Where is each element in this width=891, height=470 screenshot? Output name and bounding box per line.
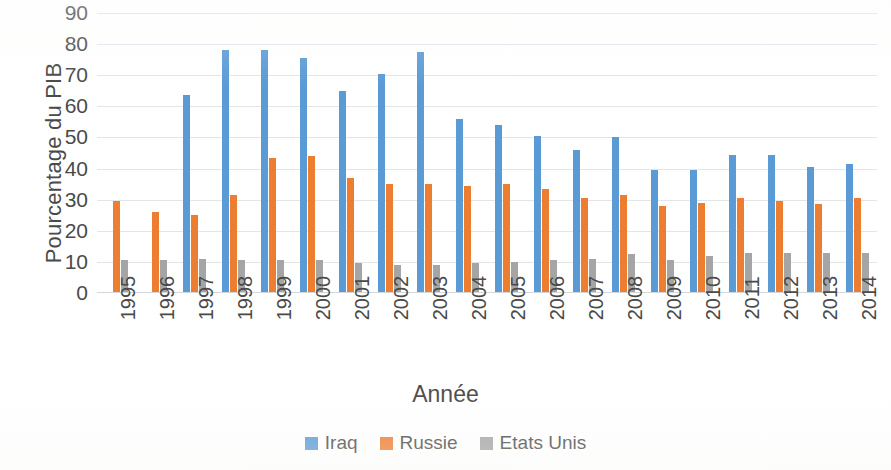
x-tick-cell: 2004 [448,296,487,374]
bar[interactable] [378,74,385,293]
bar[interactable] [846,164,853,293]
plot-area [97,13,877,293]
bar[interactable] [534,136,541,293]
x-tick-cell: 2012 [760,296,799,374]
legend-item[interactable]: Etats Unis [480,432,587,454]
bar-group [370,13,409,293]
x-tick-cell: 2000 [292,296,331,374]
x-axis-tick-labels: 1995199619971998199920002001200220032004… [97,296,877,374]
x-tick-cell: 2001 [331,296,370,374]
x-tick-cell: 2002 [370,296,409,374]
bar-group [721,13,760,293]
legend-swatch-icon [480,437,493,450]
y-tick-label: 30 [30,188,88,212]
x-tick-cell: 2003 [409,296,448,374]
bar-group [526,13,565,293]
bar[interactable] [308,156,315,293]
x-tick-cell: 2013 [799,296,838,374]
x-tick-cell: 2006 [526,296,565,374]
bar-group [565,13,604,293]
x-tick-cell: 2009 [643,296,682,374]
x-tick-cell: 2007 [565,296,604,374]
x-tick-cell: 2005 [487,296,526,374]
x-tick-cell: 1996 [136,296,175,374]
x-axis-title: Année [0,381,891,408]
y-tick-label: 70 [30,63,88,87]
bar-chart: Pourcentage du PIB 9080706050403020100 1… [0,0,891,470]
bar-group [838,13,877,293]
bar[interactable] [269,158,276,293]
bar-groups [97,13,877,293]
bar[interactable] [651,170,658,293]
bar[interactable] [417,52,424,293]
bar-group [253,13,292,293]
bar-group [448,13,487,293]
bar[interactable] [222,50,229,293]
bar-group [799,13,838,293]
bar[interactable] [300,58,307,293]
bar[interactable] [339,91,346,293]
bar-group [409,13,448,293]
x-tick-cell: 1995 [97,296,136,374]
legend-label: Etats Unis [500,432,587,454]
bar[interactable] [612,137,619,293]
bar-group [487,13,526,293]
x-tick-cell: 1997 [175,296,214,374]
bar[interactable] [183,95,190,293]
bar[interactable] [261,50,268,293]
bar[interactable] [807,167,814,293]
y-tick-label: 20 [30,219,88,243]
chart-legend: IraqRussieEtats Unis [0,432,891,454]
x-tick-cell: 2014 [838,296,877,374]
bar[interactable] [768,155,775,293]
y-tick-label: 90 [30,1,88,25]
legend-item[interactable]: Russie [380,432,458,454]
bar[interactable] [729,155,736,293]
x-tick-cell: 1998 [214,296,253,374]
y-tick-label: 0 [30,281,88,305]
bar-group [97,13,136,293]
bar-group [682,13,721,293]
bar[interactable] [690,170,697,293]
bar-group [331,13,370,293]
legend-label: Iraq [325,432,358,454]
bar-group [136,13,175,293]
bar[interactable] [573,150,580,293]
y-tick-label: 50 [30,125,88,149]
bar-group [604,13,643,293]
bar-group [175,13,214,293]
bar-group [760,13,799,293]
x-tick-label: 2014 [858,276,881,321]
bar-group [214,13,253,293]
legend-label: Russie [400,432,458,454]
y-tick-label: 60 [30,94,88,118]
y-tick-label: 10 [30,250,88,274]
x-tick-cell: 1999 [253,296,292,374]
x-tick-cell: 2011 [721,296,760,374]
bar[interactable] [456,119,463,293]
bar[interactable] [495,125,502,293]
x-tick-cell: 2010 [682,296,721,374]
x-tick-cell: 2008 [604,296,643,374]
bar-group [643,13,682,293]
bar-group [292,13,331,293]
legend-swatch-icon [380,437,393,450]
y-tick-label: 40 [30,157,88,181]
legend-item[interactable]: Iraq [305,432,358,454]
legend-swatch-icon [305,437,318,450]
y-tick-label: 80 [30,32,88,56]
